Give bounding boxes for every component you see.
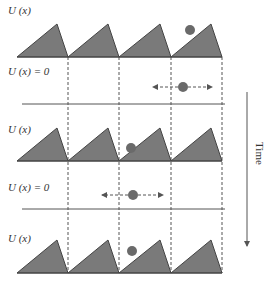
- label-potential-on-3: U (x): [8, 232, 31, 244]
- label-potential-off-1: U (x) = 0: [8, 65, 49, 77]
- particle-dot: [128, 190, 138, 200]
- sawtooth-potential-tooth: [171, 24, 222, 57]
- sawtooth-potential-tooth: [119, 128, 171, 161]
- sawtooth-potential-tooth: [68, 128, 119, 161]
- time-axis-label: Time: [254, 142, 266, 165]
- brownian-ratchet-diagram: U (x) U (x) = 0 U (x) U (x) = 0 U (x) Ti…: [0, 0, 279, 282]
- particle-dot: [185, 25, 195, 35]
- sawtooth-potential-tooth: [119, 240, 171, 273]
- label-potential-off-2: U (x) = 0: [8, 181, 49, 193]
- sawtooth-potential-tooth: [171, 240, 222, 273]
- label-potential-on-2: U (x): [8, 123, 31, 135]
- sawtooth-potential-tooth: [68, 240, 119, 273]
- particle-dot: [178, 82, 188, 92]
- sawtooth-potential-tooth: [17, 24, 68, 57]
- particle-dot: [126, 143, 136, 153]
- diagram-graphic: [0, 0, 279, 282]
- label-potential-on-1: U (x): [8, 4, 31, 16]
- sawtooth-potential-tooth: [68, 24, 119, 57]
- sawtooth-potential-tooth: [171, 128, 222, 161]
- sawtooth-potential-tooth: [119, 24, 171, 57]
- sawtooth-potential-tooth: [17, 240, 68, 273]
- particle-dot: [127, 246, 137, 256]
